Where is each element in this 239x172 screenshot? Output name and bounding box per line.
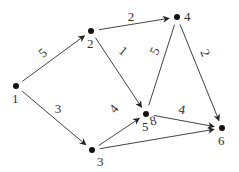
node-label-5: 5 [142,119,149,134]
edge-weight-1-2: 5 [35,45,50,61]
node-6 [219,125,225,131]
node-label-1: 1 [12,91,19,106]
edge-weight-4-5: 5 [146,45,162,57]
edge-2-5 [95,38,141,108]
node-5 [143,111,149,117]
edge-labels-layer: 532148524 [35,9,213,129]
node-4 [174,14,180,20]
node-label-6: 6 [218,133,225,148]
edge-weight-5-6: 4 [178,102,187,118]
edge-weight-4-6: 2 [197,47,213,59]
node-label-3: 3 [97,154,104,169]
edge-1-2 [22,36,84,82]
edge-weight-1-3: 3 [55,101,62,116]
edge-weight-2-5: 1 [116,43,131,59]
edge-weight-3-6: 8 [148,112,158,128]
edges-layer [22,18,219,148]
nodes-layer: 123456 [12,9,225,169]
edge-1-3 [22,91,86,145]
edge-3-5 [99,118,140,145]
graph-diagram: 532148524 123456 [0,0,239,172]
node-2 [88,28,94,34]
edge-weight-3-5: 4 [106,101,122,116]
edge-3-6 [100,129,214,148]
edge-4-5 [149,25,175,106]
node-label-4: 4 [184,9,191,24]
node-3 [89,147,95,153]
node-label-2: 2 [87,36,94,51]
node-1 [13,83,19,89]
edge-weight-2-4: 2 [128,9,135,24]
